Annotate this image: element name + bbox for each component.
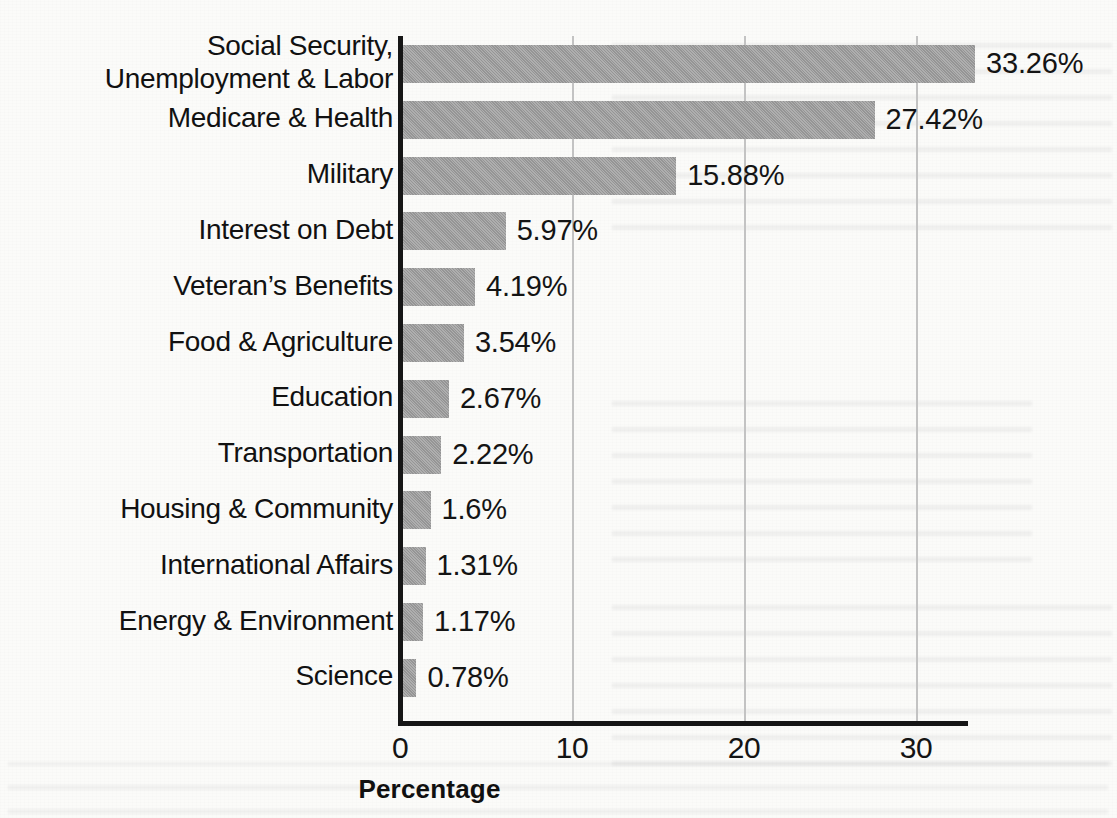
gridline-20 bbox=[744, 36, 746, 722]
bar-value-label: 1.17% bbox=[434, 605, 515, 638]
bar-value-label: 2.67% bbox=[460, 382, 541, 415]
bar[interactable] bbox=[403, 101, 875, 139]
category-label: Food & Agriculture bbox=[168, 325, 393, 358]
bar[interactable] bbox=[403, 380, 449, 418]
x-tick-label-10: 10 bbox=[556, 731, 588, 765]
x-tick-label-0: 0 bbox=[392, 731, 408, 765]
bar-row[interactable]: 1.31% bbox=[403, 547, 566, 585]
bar[interactable] bbox=[403, 547, 426, 585]
x-tick-label-20: 20 bbox=[728, 731, 760, 765]
bar-value-label: 4.19% bbox=[486, 270, 567, 303]
category-label: Education bbox=[271, 380, 393, 413]
gridline-30 bbox=[916, 36, 918, 722]
bar-row[interactable]: 15.88% bbox=[403, 157, 816, 195]
bar-row[interactable]: 33.26% bbox=[403, 45, 1115, 83]
bar[interactable] bbox=[403, 268, 475, 306]
bar-chart-plot-area: 33.26%27.42%15.88%5.97%4.19%3.54%2.67%2.… bbox=[0, 0, 1117, 818]
bar-value-label: 3.54% bbox=[475, 326, 556, 359]
category-label: Medicare & Health bbox=[168, 101, 393, 134]
category-label: Social Security, Unemployment & Labor bbox=[105, 29, 393, 95]
x-axis-line bbox=[398, 721, 968, 726]
category-label: Energy & Environment bbox=[119, 604, 393, 637]
bar[interactable] bbox=[403, 157, 676, 195]
bar-value-label: 0.78% bbox=[427, 661, 508, 694]
bar[interactable] bbox=[403, 659, 416, 697]
bar[interactable] bbox=[403, 324, 464, 362]
category-label: Housing & Community bbox=[120, 492, 393, 525]
bar[interactable] bbox=[403, 436, 441, 474]
bar[interactable] bbox=[403, 603, 423, 641]
bar-row[interactable]: 5.97% bbox=[403, 212, 646, 250]
bar[interactable] bbox=[403, 212, 506, 250]
category-label: Veteran’s Benefits bbox=[173, 269, 393, 302]
bar-row[interactable]: 2.22% bbox=[403, 436, 581, 474]
bar[interactable] bbox=[403, 45, 975, 83]
category-label: Science bbox=[295, 659, 393, 692]
bar-value-label: 27.42% bbox=[886, 103, 983, 136]
bar-row[interactable]: 1.17% bbox=[403, 603, 563, 641]
bar-value-label: 1.6% bbox=[442, 493, 507, 526]
bar-row[interactable]: 2.67% bbox=[403, 380, 589, 418]
category-label: Military bbox=[307, 157, 393, 190]
bar-value-label: 1.31% bbox=[437, 549, 518, 582]
bar-value-label: 15.88% bbox=[687, 158, 784, 191]
category-label: Transportation bbox=[218, 436, 393, 469]
x-axis-title-text: Percentage bbox=[358, 774, 500, 805]
bar-value-label: 33.26% bbox=[986, 47, 1083, 80]
x-axis-title: Percentage bbox=[0, 774, 1117, 805]
bar-row[interactable]: 27.42% bbox=[403, 101, 1015, 139]
category-label: Interest on Debt bbox=[199, 213, 393, 246]
bar-row[interactable]: 3.54% bbox=[403, 324, 604, 362]
bar-value-label: 2.22% bbox=[452, 437, 533, 470]
bar-row[interactable]: 4.19% bbox=[403, 268, 615, 306]
bar[interactable] bbox=[403, 491, 431, 529]
category-label: International Affairs bbox=[160, 548, 393, 581]
bar-row[interactable]: 0.78% bbox=[403, 659, 556, 697]
bar-row[interactable]: 1.6% bbox=[403, 491, 571, 529]
chart-page: 33.26%27.42%15.88%5.97%4.19%3.54%2.67%2.… bbox=[0, 0, 1117, 818]
x-tick-label-30: 30 bbox=[900, 731, 932, 765]
bar-value-label: 5.97% bbox=[517, 214, 598, 247]
